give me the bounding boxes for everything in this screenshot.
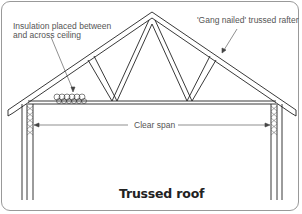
right-rafter-end	[291, 110, 296, 116]
insulation-leader-line	[51, 37, 73, 90]
web-right-long-a	[152, 24, 187, 101]
insulation-icon	[54, 94, 87, 104]
web-left-long-b	[117, 24, 152, 101]
web-left-short-b	[94, 56, 117, 101]
left-rafter-end	[8, 110, 13, 116]
rafter-arrowhead-icon	[222, 48, 226, 53]
insulation-arrowhead-icon	[71, 87, 75, 92]
span-arrowhead-left-icon	[34, 123, 39, 127]
rafter-leader-line	[224, 29, 237, 50]
web-left-short-a	[88, 60, 112, 101]
trussed-roof-diagram: Insulation placed between and across cei…	[0, 0, 302, 214]
clear-span-label: Clear span	[134, 120, 175, 130]
rafter-label: 'Gang nailed' trussed rafter	[197, 15, 299, 25]
web-right-short-b	[192, 60, 216, 101]
diagram-title: Trussed roof	[119, 186, 204, 201]
span-arrowhead-right-icon	[265, 123, 270, 127]
right-rafter-bottom	[152, 18, 291, 113]
web-right-short-a	[187, 56, 210, 101]
insulation-label-line2: and across ceiling	[13, 30, 81, 40]
